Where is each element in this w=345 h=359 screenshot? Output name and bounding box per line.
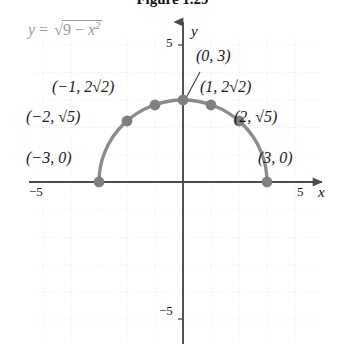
equation-lhs: y: [28, 21, 35, 38]
radicand-b: x: [88, 21, 95, 38]
radicand-minus: −: [75, 21, 84, 38]
point-label-1-2sqrt2: (1, 2√2): [200, 79, 251, 95]
x-axis-label: x: [318, 185, 325, 200]
x-tick-label-positive-5: 5: [297, 185, 304, 198]
point-neg2-r5: [122, 116, 133, 127]
point-1-2r2: [206, 100, 217, 111]
point-label-neg3-0: (−3, 0): [26, 150, 71, 166]
point-label-3-0: (3, 0): [258, 150, 293, 166]
radical-expression: √9 − x2: [52, 20, 101, 38]
x-tick-label-negative-5: −5: [29, 185, 43, 198]
point-label-neg2-sqrt5: (−2, √5): [26, 109, 80, 125]
point-label-2-sqrt5: (2, √5): [234, 109, 277, 125]
point-neg1-2r2: [150, 100, 161, 111]
point-label-0-3: (0, 3): [196, 48, 231, 64]
equation-label: y = √9 − x2: [28, 20, 102, 38]
point-neg3-0: [94, 177, 105, 188]
point-0-3: [178, 95, 189, 106]
point-label-neg1-2sqrt2: (−1, 2√2): [52, 79, 114, 95]
radicand-exponent: 2: [95, 19, 100, 31]
equation-equals: =: [39, 21, 48, 38]
y-tick-label-negative-5: −5: [159, 304, 173, 317]
point-3-0: [262, 177, 273, 188]
y-axis-label: y: [191, 24, 198, 39]
y-tick-label-positive-5: 5: [166, 36, 173, 49]
radicand-a: 9: [63, 21, 71, 38]
graph-figure: Figure 1.29: [0, 0, 345, 359]
